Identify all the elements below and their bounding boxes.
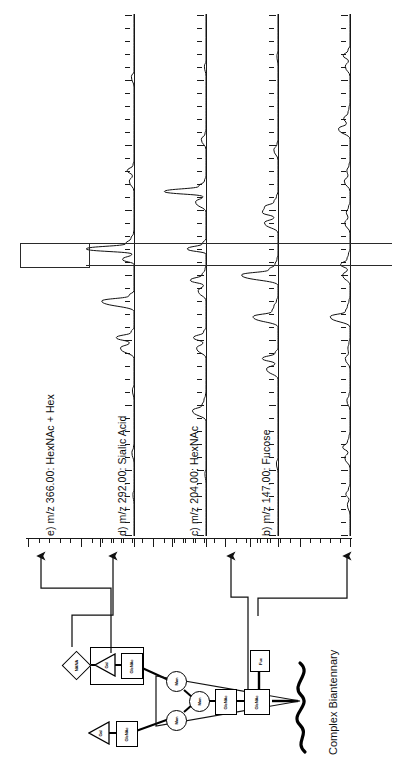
glycan-residue-glcnac-upper: GlcNAc — [121, 653, 143, 679]
glycan-residue-gal-lower: Gal — [88, 721, 110, 745]
glycan-eic-figure: e) m/z 366.00: HexNAc + Hex d) m/z 292.0… — [0, 0, 404, 765]
glycan-bonds — [0, 0, 404, 765]
glycan-residue-glcnac-core-2: GlcNAc — [215, 689, 237, 715]
peptide-backbone-squiggle — [297, 663, 305, 752]
glycan-residue-man-upper: Man — [166, 671, 187, 692]
glycan-residue-glcnac-core-1: GlcNAc — [244, 689, 270, 715]
glycan-residue-man-core: Man — [189, 691, 210, 712]
glycan-residue-gal-upper: Gal — [94, 653, 116, 677]
glycan-residue-man-lower: Man — [166, 710, 187, 731]
glycan-residue-fuc: Fuc — [250, 650, 270, 672]
glycan-structure-name: Complex Biantennary — [327, 650, 339, 755]
glycan-residue-glcnac-lower: GlcNAc — [116, 721, 138, 747]
